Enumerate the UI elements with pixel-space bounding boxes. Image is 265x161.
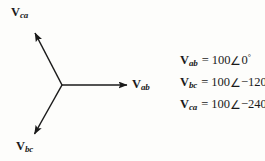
- equation-vca-subscript: ca: [189, 102, 197, 112]
- equation-vca-magnitude: 100: [211, 97, 230, 111]
- phasor-diagram-figure: Vca Vbc Vab Vab=100∠0° Vbc=100∠−120° Vca…: [0, 0, 265, 161]
- vector-vca-arrow: [35, 33, 62, 85]
- angle-icon: ∠: [230, 50, 241, 72]
- angle-icon: ∠: [230, 94, 241, 116]
- vector-label-vbc: Vbc: [16, 139, 33, 154]
- equation-list: Vab=100∠0° Vbc=100∠−120° Vca=100∠−240°: [180, 47, 265, 113]
- equation-vca-equals: =: [201, 97, 208, 111]
- equation-vab-symbol: V: [180, 53, 189, 67]
- equation-vbc-equals: =: [201, 75, 208, 89]
- angle-icon: ∠: [230, 72, 241, 94]
- equation-row-vbc: Vbc=100∠−120°: [180, 69, 265, 91]
- vector-label-vab-symbol: V: [132, 77, 141, 91]
- vector-label-vca: Vca: [11, 5, 28, 20]
- equation-vbc-subscript: bc: [189, 80, 197, 90]
- equation-vca-angle-value: −240: [241, 97, 265, 111]
- equation-vca-symbol: V: [180, 97, 189, 111]
- vector-label-vab: Vab: [132, 77, 150, 92]
- vector-label-vbc-subscript: bc: [25, 144, 33, 154]
- equation-vab-magnitude: 100: [212, 53, 231, 67]
- equation-vbc-symbol: V: [180, 75, 189, 89]
- equation-vbc-angle-value: −120: [241, 75, 265, 89]
- equation-vab-degree-icon: °: [248, 53, 251, 62]
- equation-vab-equals: =: [202, 53, 209, 67]
- vector-label-vca-subscript: ca: [20, 10, 28, 20]
- vector-vbc-arrow: [35, 85, 63, 134]
- equation-row-vca: Vca=100∠−240°: [180, 91, 265, 113]
- equation-vab-subscript: ab: [189, 58, 198, 68]
- vector-label-vca-symbol: V: [11, 5, 20, 19]
- vector-label-vab-subscript: ab: [141, 82, 150, 92]
- equation-vbc-magnitude: 100: [211, 75, 230, 89]
- vector-label-vbc-symbol: V: [16, 139, 25, 153]
- equation-row-vab: Vab=100∠0°: [180, 47, 265, 69]
